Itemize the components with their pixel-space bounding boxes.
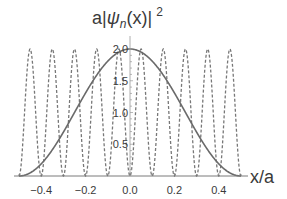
x-tick-label: 0.2 bbox=[167, 184, 182, 196]
ylabel-prefix: a| bbox=[92, 8, 107, 28]
x-axis-label: x/a bbox=[250, 167, 275, 187]
ylabel-suffix: (x)| bbox=[126, 8, 152, 28]
y-tick-label: 2.0 bbox=[113, 43, 128, 55]
x-tick-label: 0.4 bbox=[211, 184, 226, 196]
x-tick-label: −0.2 bbox=[75, 184, 97, 196]
y-axis-label: a|ψn(x)|2 bbox=[92, 5, 163, 31]
y-tick-label: 1.5 bbox=[113, 75, 128, 87]
x-tick-label: 0.0 bbox=[122, 184, 137, 196]
x-tick-label: −0.4 bbox=[30, 184, 52, 196]
ylabel-psi: ψ bbox=[107, 8, 120, 28]
y-tick-label: 1.0 bbox=[113, 107, 128, 119]
chart: −0.4−0.20.00.20.4 0.51.01.52.0 x/a a|ψn(… bbox=[0, 0, 287, 199]
ylabel-superscript: 2 bbox=[156, 5, 163, 19]
y-tick-label: 0.5 bbox=[113, 138, 128, 150]
